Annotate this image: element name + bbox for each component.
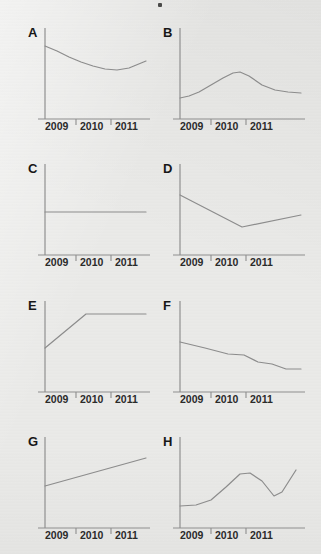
panel-b-tick-label-2009: 2009 [180,120,203,132]
panel-f-tick-label-2010: 2010 [215,393,238,405]
panel-c-tick-label-2011: 2011 [115,256,138,268]
panel-c-tick-label-2010: 2010 [80,256,103,268]
panel-b-data-line [180,72,301,98]
panel-c: C 2009 2010 2011 [24,160,174,280]
panel-h-tick-label-2011: 2011 [250,529,273,541]
panel-a: A 2009 2010 2011 [24,24,174,144]
panel-f-tick-label-2009: 2009 [180,393,203,405]
panel-a-tick-label-2010: 2010 [80,120,103,132]
panel-g-tick-label-2010: 2010 [80,529,103,541]
figure-canvas: A 2009 2010 2011 B 2009 2010 [0,0,321,554]
panel-g: G 2009 2010 2011 [24,433,174,553]
panel-e-tick-label-2009: 2009 [45,393,68,405]
panel-c-tick-label-2009: 2009 [45,256,68,268]
panel-e-tick-label-2011: 2011 [115,393,138,405]
panel-d-tick-label-2009: 2009 [180,256,203,268]
panel-b: B 2009 2010 2011 [159,24,309,144]
panel-d-tick-label-2010: 2010 [215,256,238,268]
panel-f-data-line [180,342,301,369]
panel-b-tick-label-2010: 2010 [215,120,238,132]
panel-f: F 2009 2010 2011 [159,297,309,417]
panel-h-data-line [180,470,296,506]
panel-a-data-line [45,46,146,70]
panel-f-tick-label-2011: 2011 [250,393,273,405]
panel-g-data-line [45,458,146,486]
panel-b-tick-label-2011: 2011 [250,120,273,132]
panel-g-tick-label-2009: 2009 [45,529,68,541]
panel-e-data-line [45,314,146,348]
panel-d-data-line [180,195,301,227]
panel-e-tick-label-2010: 2010 [80,393,103,405]
panel-h: H 2009 2010 2011 [159,433,309,553]
panel-grid: A 2009 2010 2011 B 2009 2010 [0,0,321,554]
panel-a-tick-label-2009: 2009 [45,120,68,132]
panel-a-tick-label-2011: 2011 [115,120,138,132]
panel-d-tick-label-2011: 2011 [250,256,273,268]
panel-e: E 2009 2010 2011 [24,297,174,417]
panel-g-tick-label-2011: 2011 [115,529,138,541]
panel-d: D 2009 2010 2011 [159,160,309,280]
panel-h-tick-label-2009: 2009 [180,529,203,541]
panel-h-tick-label-2010: 2010 [215,529,238,541]
